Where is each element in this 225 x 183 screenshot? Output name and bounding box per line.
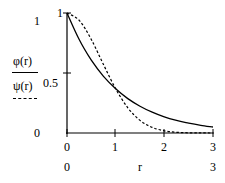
phi-series-line [67,13,213,127]
plot-area [0,0,225,183]
psi-series-line [67,13,213,133]
